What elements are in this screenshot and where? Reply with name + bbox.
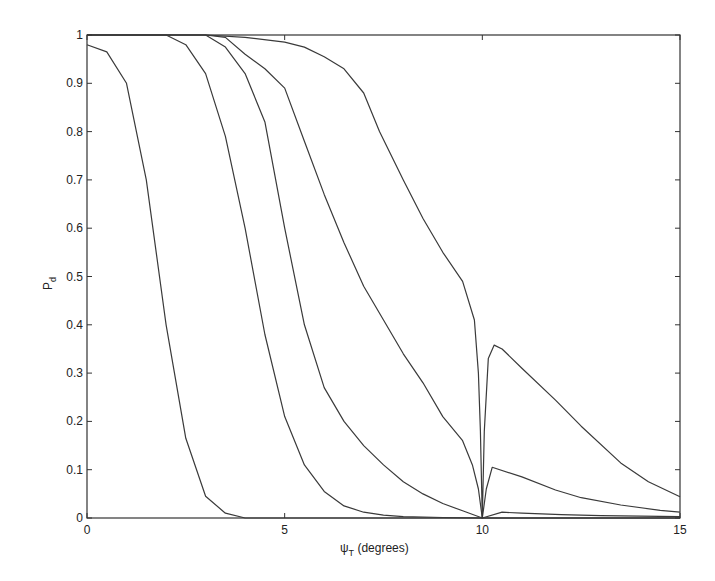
series-curve-4 <box>87 35 680 518</box>
y-tick-label: 0.4 <box>66 318 83 332</box>
y-axis-label-symbol: P <box>41 282 55 290</box>
x-tick-label: 10 <box>476 523 490 537</box>
y-tick-label: 1 <box>76 28 83 42</box>
data-curves <box>87 35 680 518</box>
series-curve-2 <box>87 35 680 518</box>
x-tick-label: 0 <box>84 523 91 537</box>
y-tick-label: 0.8 <box>66 125 83 139</box>
y-tick-label: 0.3 <box>66 366 83 380</box>
y-tick-label: 0.7 <box>66 173 83 187</box>
y-tick-label: 0.6 <box>66 221 83 235</box>
y-axis-label-subscript: d <box>48 277 58 282</box>
x-tick-label: 15 <box>673 523 687 537</box>
line-chart: 051015 00.10.20.30.40.50.60.70.80.91 ψT … <box>0 0 715 581</box>
series-curve-5 <box>87 35 680 518</box>
y-tick-label: 0.2 <box>66 414 83 428</box>
y-tick-label: 0.1 <box>66 463 83 477</box>
axes-box <box>87 35 680 518</box>
y-tick-label: 0 <box>76 511 83 525</box>
x-axis-ticks: 051015 <box>84 35 687 537</box>
y-tick-label: 0.9 <box>66 76 83 90</box>
y-axis-ticks: 00.10.20.30.40.50.60.70.80.91 <box>66 28 680 525</box>
x-axis-label: ψT (degrees) <box>340 541 409 558</box>
plot-area <box>87 35 680 518</box>
series-curve-3 <box>87 35 680 518</box>
series-curve-1 <box>87 45 680 518</box>
y-tick-label: 0.5 <box>66 270 83 284</box>
x-tick-label: 5 <box>281 523 288 537</box>
x-axis-label-symbol: ψ <box>340 541 349 555</box>
x-axis-label-units: (degrees) <box>354 541 409 555</box>
y-axis-label: Pd <box>41 277 58 290</box>
